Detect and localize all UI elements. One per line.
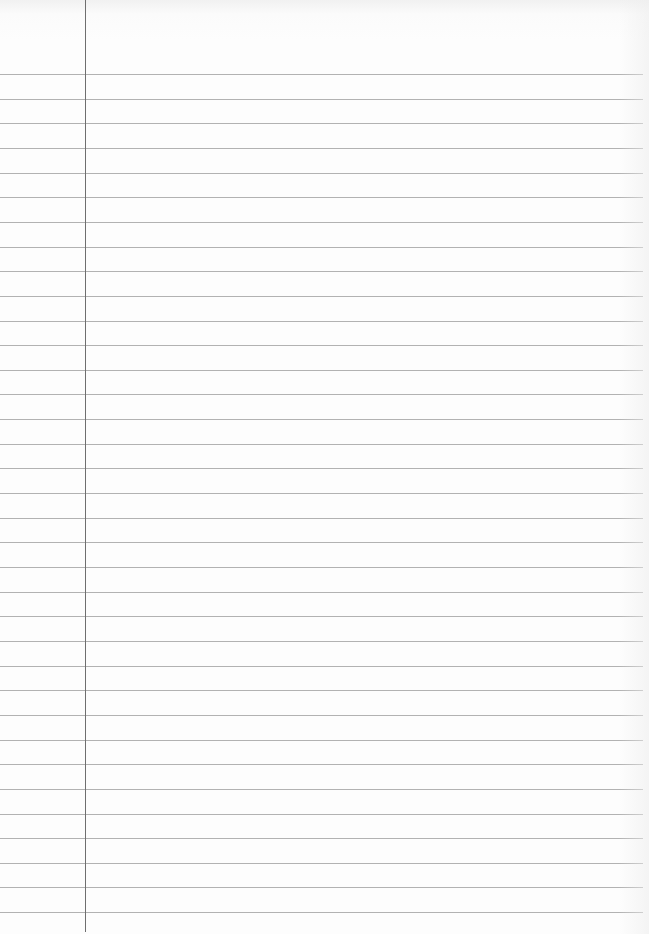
ruled-line — [0, 123, 643, 124]
ruled-line — [0, 616, 643, 617]
ruled-line — [0, 148, 643, 149]
ruled-line — [0, 887, 643, 888]
ruled-line — [0, 666, 643, 667]
ruled-line — [0, 444, 643, 445]
ruled-line — [0, 296, 643, 297]
ruled-line — [0, 814, 643, 815]
ruled-line — [0, 321, 643, 322]
ruled-line — [0, 74, 643, 75]
margin-line — [85, 0, 86, 932]
ruled-line — [0, 715, 643, 716]
ruled-line — [0, 197, 643, 198]
ruled-line — [0, 99, 643, 100]
ruled-line — [0, 863, 643, 864]
ruled-line — [0, 641, 643, 642]
ruled-line — [0, 740, 643, 741]
ruled-line — [0, 518, 643, 519]
ruled-line — [0, 271, 643, 272]
ruled-line — [0, 542, 643, 543]
ruled-line — [0, 912, 643, 913]
ruled-line — [0, 419, 643, 420]
ruled-line — [0, 468, 643, 469]
ruled-line — [0, 789, 643, 790]
ruled-line — [0, 222, 643, 223]
ruled-line — [0, 493, 643, 494]
ruled-line — [0, 345, 643, 346]
ruled-line — [0, 370, 643, 371]
ruled-line — [0, 567, 643, 568]
ruled-line — [0, 592, 643, 593]
ruled-line — [0, 764, 643, 765]
ruled-line — [0, 394, 643, 395]
notebook-page — [0, 0, 649, 934]
ruled-line — [0, 838, 643, 839]
ruled-line — [0, 247, 643, 248]
ruled-line — [0, 690, 643, 691]
ruled-line — [0, 173, 643, 174]
